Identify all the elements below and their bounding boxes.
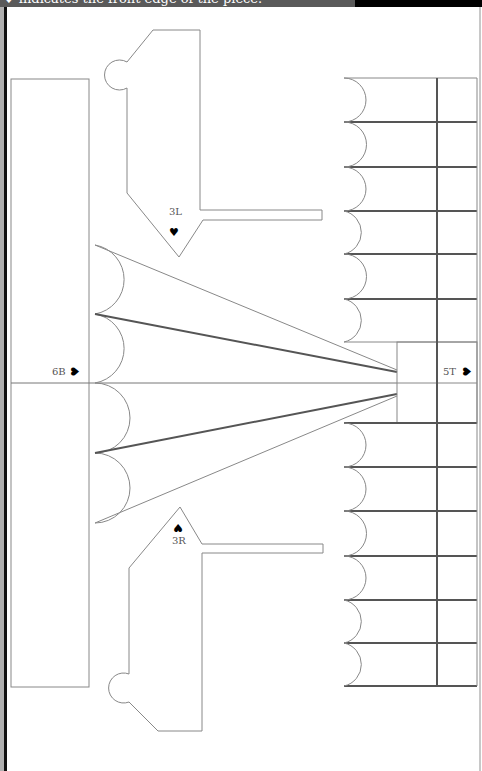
- pattern-sheet: [0, 0, 482, 771]
- piece-label-3L: 3L: [169, 206, 182, 217]
- piece-label-5T: 5T: [443, 366, 456, 377]
- front-mark-icon-3L: ♥: [169, 227, 179, 238]
- piece-3L-outline: [105, 30, 322, 257]
- left-scallops: [95, 245, 130, 523]
- right-grid-upper: [344, 78, 477, 342]
- right-grid-lower: [344, 423, 477, 686]
- front-mark-icon-6B: ♥: [70, 367, 81, 377]
- piece-label-3R: 3R: [172, 535, 186, 546]
- front-mark-icon-3R: ♥: [173, 522, 183, 533]
- piece-3R-outline: [109, 507, 323, 731]
- piece-label-6B: 6B: [52, 366, 66, 377]
- front-mark-icon-5T: ♥: [462, 367, 473, 377]
